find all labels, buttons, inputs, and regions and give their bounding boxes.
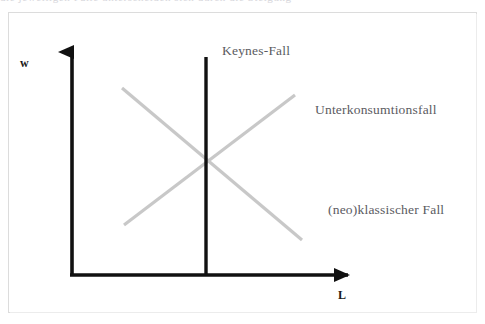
labour-supply-line [124,95,295,225]
label-unterkonsumtionsfall: Unterkonsumtionsfall [315,103,437,117]
figure-root: die jeweiligen Fälle unterscheiden sich … [0,0,485,324]
vertical-axis-label: w [20,57,29,69]
label-keynes-fall: Keynes-Fall [222,44,290,58]
label-neoklassischer-fall: (neo)klassischer Fall [328,203,444,217]
horizontal-axis-label: L [338,289,346,301]
